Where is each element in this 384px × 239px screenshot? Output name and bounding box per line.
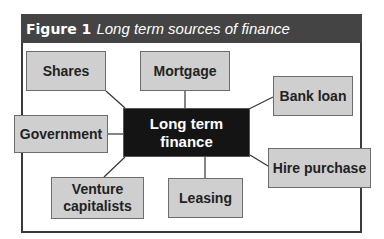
center-label-line2: finance bbox=[150, 133, 223, 151]
box-government: Government bbox=[14, 115, 108, 153]
box-venture-label-line2: capitalists bbox=[63, 198, 131, 215]
connector-bank-loan bbox=[249, 97, 273, 109]
box-leasing-label: Leasing bbox=[179, 190, 232, 207]
center-node-long-term-finance: Long term finance bbox=[123, 108, 250, 157]
box-venture-capitalists: Venture capitalists bbox=[51, 177, 144, 219]
box-shares-label: Shares bbox=[43, 63, 90, 80]
box-bank-loan: Bank loan bbox=[273, 76, 353, 116]
connector-venture bbox=[104, 157, 125, 177]
box-bank-loan-label: Bank loan bbox=[280, 88, 347, 105]
box-venture-label-line1: Venture bbox=[63, 181, 131, 198]
connector-hire-purchase bbox=[250, 155, 268, 166]
box-shares: Shares bbox=[26, 51, 106, 91]
box-leasing: Leasing bbox=[168, 178, 243, 218]
box-hire-purchase: Hire purchase bbox=[268, 148, 371, 188]
box-government-label: Government bbox=[20, 126, 102, 143]
center-label-line1: Long term bbox=[150, 115, 223, 133]
connector-shares bbox=[106, 91, 125, 108]
box-mortgage-label: Mortgage bbox=[154, 63, 217, 80]
box-mortgage: Mortgage bbox=[140, 51, 230, 91]
box-hire-purchase-label: Hire purchase bbox=[273, 160, 366, 177]
